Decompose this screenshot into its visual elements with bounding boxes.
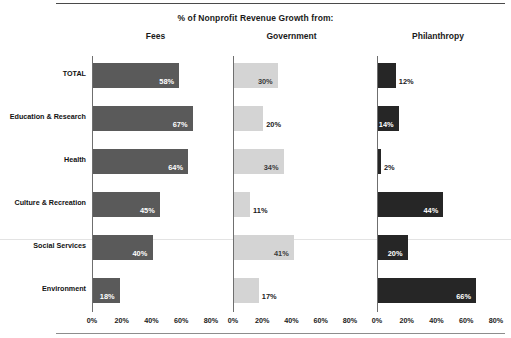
value-axis-line — [92, 56, 93, 312]
bar-philanthropy-health — [378, 149, 381, 174]
bar-value-label-fees-health: 64% — [168, 164, 183, 171]
x-tick-philanthropy-60: 60% — [455, 316, 477, 325]
category-axis-labels: TOTAL Education & Research Health Cultur… — [0, 56, 92, 312]
bar-value-label-philanthropy-culture-recreation: 44% — [423, 207, 438, 214]
bar-value-label-government-culture-recreation: 11% — [253, 207, 267, 214]
value-axis-line — [377, 56, 378, 312]
x-tick-philanthropy-40: 40% — [426, 316, 448, 325]
x-tick-philanthropy-0: 0% — [366, 316, 388, 325]
bar-value-label-fees-total: 58% — [159, 78, 174, 85]
bar-value-label-government-social-services: 41% — [274, 250, 289, 257]
x-tick-fees-80: 80% — [200, 316, 222, 325]
panel-fees: 58%67%64%45%40%18% — [92, 56, 219, 312]
bar-value-label-fees-social-services: 40% — [133, 250, 148, 257]
x-tick-philanthropy-80: 80% — [485, 316, 507, 325]
x-tick-fees-40: 40% — [141, 316, 163, 325]
value-axis-line — [233, 56, 234, 312]
bar-philanthropy-total — [378, 63, 396, 88]
category-label-education: Education & Research — [10, 113, 86, 120]
x-tick-fees-20: 20% — [111, 316, 133, 325]
bar-government-culture-recreation — [234, 192, 250, 217]
bar-value-label-fees-culture-recreation: 45% — [140, 207, 155, 214]
category-label-culture: Culture & Recreation — [15, 199, 87, 206]
bar-value-label-government-education-research: 20% — [266, 121, 281, 128]
top-rule — [56, 3, 505, 4]
x-tick-philanthropy-20: 20% — [396, 316, 418, 325]
panel-philanthropy: 12%14%2%44%20%66% — [377, 56, 499, 312]
panel-government: 30%20%34%11%41%17% — [233, 56, 353, 312]
bar-value-label-government-health: 34% — [264, 164, 279, 171]
panel-title-philanthropy: Philanthropy — [377, 31, 499, 41]
x-tick-government-40: 40% — [281, 316, 303, 325]
bar-value-label-government-environment: 17% — [262, 293, 277, 300]
chart-title: % of Nonprofit Revenue Growth from: — [0, 13, 511, 23]
bar-value-label-philanthropy-environment: 66% — [456, 293, 471, 300]
category-label-total: TOTAL — [63, 70, 86, 77]
bar-government-education-research — [234, 106, 263, 131]
category-label-health: Health — [64, 156, 86, 163]
x-tick-government-0: 0% — [222, 316, 244, 325]
panel-title-fees: Fees — [92, 31, 219, 41]
bar-value-label-philanthropy-social-services: 20% — [388, 250, 403, 257]
bar-value-label-philanthropy-health: 2% — [384, 164, 395, 171]
x-tick-government-20: 20% — [251, 316, 273, 325]
bar-value-label-philanthropy-total: 12% — [399, 78, 414, 85]
x-tick-fees-60: 60% — [170, 316, 192, 325]
panel-title-government: Government — [233, 31, 350, 41]
x-tick-fees-0: 0% — [81, 316, 103, 325]
x-tick-government-60: 60% — [310, 316, 332, 325]
category-label-social: Social Services — [33, 242, 86, 249]
bottom-rule — [56, 333, 505, 334]
bar-value-label-fees-environment: 18% — [100, 293, 115, 300]
bar-value-label-government-total: 30% — [258, 78, 273, 85]
bar-value-label-philanthropy-education-research: 14% — [379, 121, 394, 128]
bar-value-label-fees-education-research: 67% — [173, 121, 188, 128]
chart-figure: % of Nonprofit Revenue Growth from: Fees… — [0, 0, 511, 338]
category-label-environment: Environment — [42, 285, 86, 292]
bar-government-environment — [234, 278, 259, 303]
x-tick-government-80: 80% — [339, 316, 361, 325]
